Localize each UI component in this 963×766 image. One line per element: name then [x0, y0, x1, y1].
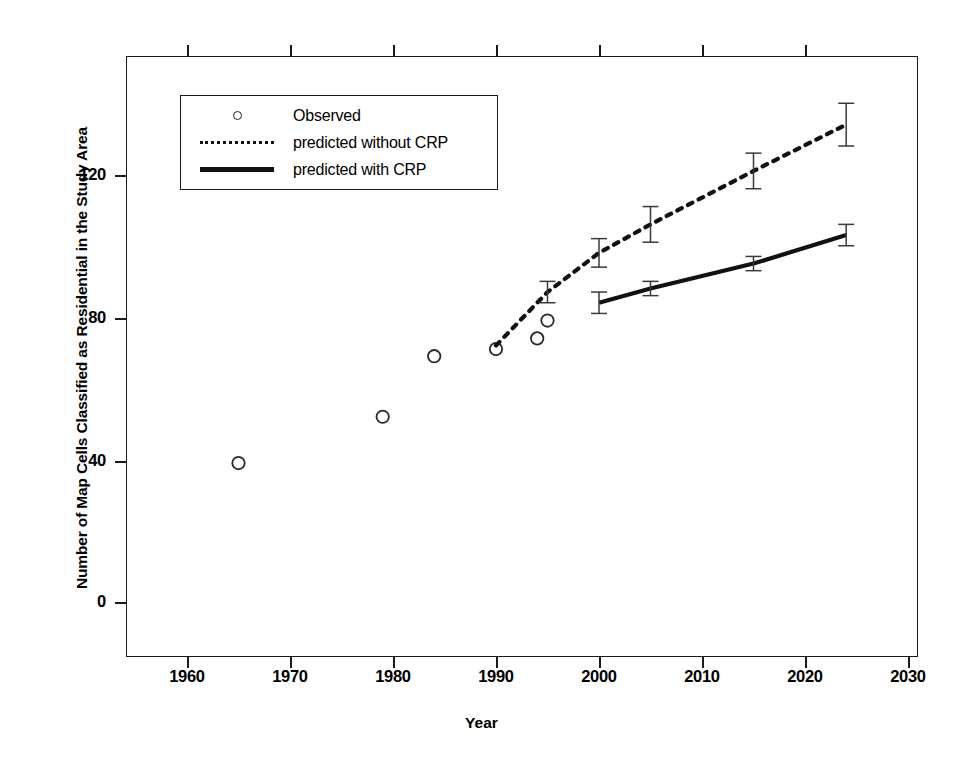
x-tick-top-2000 — [599, 45, 601, 56]
x-tick-label-2010: 2010 — [667, 667, 737, 686]
legend-label-observed: Observed — [293, 107, 361, 125]
y-tick-80 — [115, 318, 126, 320]
y-tick-40 — [115, 461, 126, 463]
y-tick-120 — [115, 175, 126, 177]
x-tick-label-1990: 1990 — [461, 667, 531, 686]
x-axis-title: Year — [0, 714, 963, 732]
x-tick-label-1960: 1960 — [152, 667, 222, 686]
y-tick-0 — [115, 602, 126, 604]
x-tick-top-1970 — [290, 45, 292, 56]
legend-entry-observed: Observed — [181, 102, 497, 129]
x-tick-top-1990 — [496, 45, 498, 56]
chart-legend: Observed predicted without CRP predicted… — [180, 95, 498, 190]
chart-figure: Number of Map Cells Classified as Reside… — [0, 0, 963, 766]
solid-line-swatch-icon — [181, 156, 293, 183]
x-tick-top-1960 — [187, 45, 189, 56]
x-tick-label-1980: 1980 — [358, 667, 428, 686]
legend-entry-without-crp: predicted without CRP — [181, 129, 497, 156]
legend-entry-with-crp: predicted with CRP — [181, 156, 497, 183]
x-tick-top-2020 — [805, 45, 807, 56]
dashed-line-swatch-icon — [181, 129, 293, 156]
legend-label-without-crp: predicted without CRP — [293, 134, 448, 152]
y-tick-label-80: 80 — [46, 308, 106, 327]
x-tick-top-1980 — [393, 45, 395, 56]
legend-label-with-crp: predicted with CRP — [293, 161, 426, 179]
y-tick-label-40: 40 — [46, 451, 106, 470]
y-axis-title: Number of Map Cells Classified as Reside… — [73, 48, 91, 668]
x-tick-top-2010 — [702, 45, 704, 56]
x-tick-label-2020: 2020 — [770, 667, 840, 686]
y-tick-label-0: 0 — [46, 592, 106, 611]
open-circle-marker-icon — [181, 102, 293, 129]
y-tick-label-120: 120 — [46, 165, 106, 184]
x-tick-label-2030: 2030 — [873, 667, 943, 686]
x-tick-label-2000: 2000 — [564, 667, 634, 686]
x-tick-label-1970: 1970 — [255, 667, 325, 686]
